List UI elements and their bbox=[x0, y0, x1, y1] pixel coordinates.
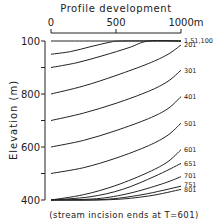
curve-label: 801 bbox=[184, 186, 196, 194]
curve-label: 601 bbox=[184, 146, 196, 154]
y-axis-label: Elevation (m) bbox=[8, 80, 19, 160]
x-tick-label: 500 bbox=[106, 17, 125, 28]
top-distance-axis: 05001000m bbox=[48, 17, 204, 33]
x-tick-label: 1000m bbox=[168, 17, 203, 28]
elevation-axis: 100800600400 bbox=[21, 36, 45, 206]
profile-curve-t701 bbox=[51, 177, 181, 200]
y-tick-label: 400 bbox=[21, 195, 40, 206]
profile-curve-t201 bbox=[51, 45, 181, 94]
x-tick-label: 0 bbox=[48, 17, 54, 28]
curve-label: 401 bbox=[184, 93, 196, 101]
y-tick-label: 800 bbox=[21, 89, 40, 100]
chart-title: Profile development bbox=[60, 3, 172, 14]
curve-labels: 1,51,100201301401501601651701751801 bbox=[184, 37, 213, 194]
profile-curve-t601 bbox=[51, 150, 181, 200]
curve-label: 501 bbox=[184, 120, 196, 128]
curve-label: 301 bbox=[184, 67, 196, 75]
curve-label: 201 bbox=[184, 41, 196, 49]
curve-label: 701 bbox=[184, 172, 196, 180]
profile-curve-t100 bbox=[51, 41, 181, 68]
profile-curve-t651 bbox=[51, 163, 181, 200]
profile-curves bbox=[51, 41, 181, 201]
incision-note: (stream incision ends at T=601) bbox=[49, 210, 198, 220]
profile-curve-t751 bbox=[51, 186, 181, 200]
profile-development-chart: Profile development 05001000m 1008006004… bbox=[0, 0, 216, 224]
y-tick-label: 100 bbox=[21, 36, 40, 47]
curve-label: 651 bbox=[184, 160, 196, 168]
y-tick-label: 600 bbox=[21, 142, 40, 153]
